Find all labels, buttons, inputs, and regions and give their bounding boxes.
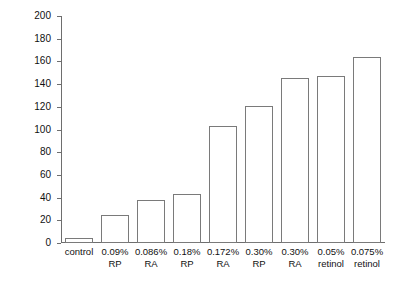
y-tick-label: 160 [34, 54, 51, 67]
bar-slot [313, 16, 349, 243]
y-tick-label: 0 [45, 236, 51, 249]
x-category-label-line2: retinol [343, 258, 391, 270]
y-tick-label: 40 [40, 191, 51, 204]
bar-slot [349, 16, 385, 243]
bar-slot [61, 16, 97, 243]
y-tick-label: 180 [34, 32, 51, 45]
bar [209, 126, 237, 243]
bar [353, 57, 381, 243]
y-tick-label: 120 [34, 100, 51, 113]
bar [317, 76, 345, 243]
y-tick-label: 200 [34, 9, 51, 22]
plot-area: 200180160140120100806040200 [61, 16, 385, 243]
y-tick-label: 100 [34, 123, 51, 136]
y-tick: 0 [57, 243, 61, 244]
bar-slot [277, 16, 313, 243]
bar [173, 194, 201, 243]
y-tick-label: 20 [40, 213, 51, 226]
y-tick-label: 80 [40, 145, 51, 158]
x-category-label: 0.075%retinol [343, 246, 391, 270]
bar-slot [97, 16, 133, 243]
bar-chart: expert grader cumulative irritation scor… [0, 0, 399, 284]
x-category-label-line1: 0.075% [343, 246, 391, 258]
y-tick-label: 140 [34, 77, 51, 90]
x-axis-category-labels: control0.09%RP0.086%RA0.18%RP0.172%RA0.3… [61, 246, 385, 280]
bar [137, 200, 165, 243]
bar [65, 238, 93, 243]
y-tick-label: 60 [40, 168, 51, 181]
bar [245, 106, 273, 243]
bar [281, 78, 309, 243]
bar [101, 215, 129, 243]
bar-slot [241, 16, 277, 243]
bar-slot [169, 16, 205, 243]
bar-slot [205, 16, 241, 243]
bar-series [61, 16, 385, 243]
bar-slot [133, 16, 169, 243]
